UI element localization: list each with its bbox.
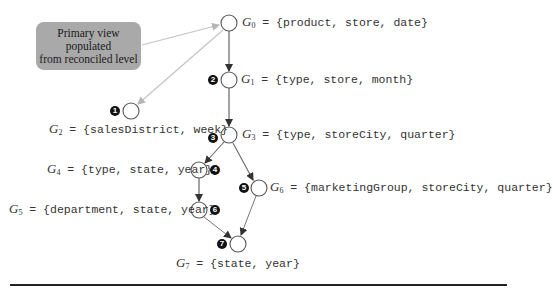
label-g6: G6 = {marketingGroup, storeCity, quarter… [270,180,553,198]
step-badge-3: 3 [208,133,218,143]
label-g0: G0 = {product, store, date} [242,15,428,33]
edge-g5-g7 [204,217,231,238]
edge-g0-g2 [138,30,223,104]
label-g7: G7 = {state, year} [176,256,300,274]
node-g2 [123,103,139,119]
label-g4: G4 = {type, state, year} [47,162,212,180]
step-badge-7: 7 [217,239,227,249]
label-g3: G3 = {type, storeCity, quarter} [242,127,456,145]
callout-line-1: Primary view populated [36,27,141,53]
label-g1: G1 = {type, store, month} [241,72,413,90]
label-g5: G5 = {department, state, year} [9,202,216,220]
callout-primary-view: Primary view populated from reconciled l… [36,22,141,70]
node-g7 [230,236,246,252]
edge-g3-g6 [233,143,253,180]
step-badge-2: 2 [208,75,218,85]
edge-g3-g4 [205,142,224,163]
step-badge-6: 6 [210,205,220,215]
edge-g6-g7 [241,196,256,235]
step-badge-4: 4 [210,165,220,175]
step-badge-1: 1 [110,106,120,116]
step-badge-5: 5 [239,183,249,193]
label-g2: G2 = {salesDistrict, week} [49,122,228,140]
callout-line-2: from reconciled level [39,53,137,66]
edge-callout-g0 [142,25,219,45]
node-g1 [221,72,237,88]
node-g0 [221,15,237,31]
node-g6 [251,180,267,196]
bottom-rule [10,284,507,286]
